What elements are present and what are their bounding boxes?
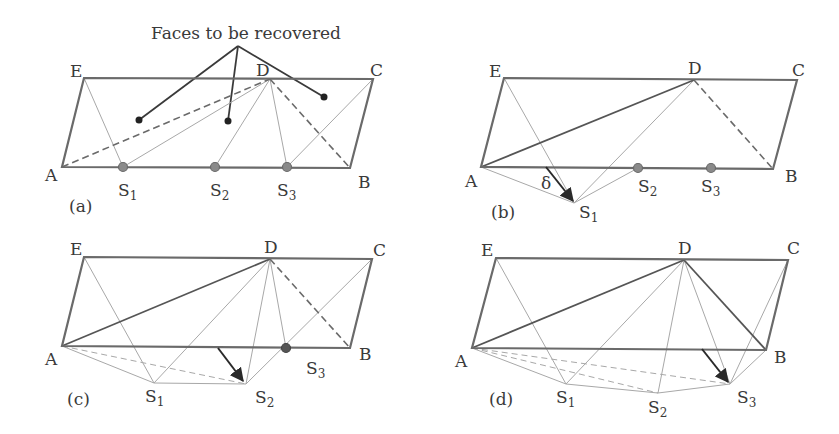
missing-edge-DB (270, 79, 350, 168)
vertex-label-a: A (454, 351, 468, 371)
steiner-label-s2: S2 (210, 180, 229, 203)
missing-edge-DB (694, 80, 773, 169)
vertex-label-e: E (70, 239, 82, 259)
missing-edge-DB (270, 259, 350, 348)
steiner-label-s3: S3 (701, 176, 720, 199)
steiner-label-s1: S1 (145, 386, 164, 409)
recovered-edge-AD (62, 259, 270, 346)
steiner-point-s3 (283, 163, 292, 172)
steiner-label-s3: S3 (277, 180, 296, 203)
panel-d: E D C A B S1 S2 S3 (d) (454, 238, 800, 420)
panel-a: Faces to be recovered E D C A B S1 S (44, 23, 383, 216)
vertex-label-d: D (678, 238, 692, 258)
vertex-label-b: B (774, 347, 787, 367)
steiner-point-s1 (119, 163, 128, 172)
vertex-label-d: D (256, 60, 270, 80)
boundary-polygon (481, 78, 797, 169)
vertex-label-e: E (489, 61, 501, 81)
displacement-arrow (702, 349, 728, 382)
vertex-label-e: E (70, 61, 82, 81)
steiner-label-s2: S2 (638, 176, 657, 199)
panel-label-b: (b) (491, 202, 515, 222)
panel-label-c: (c) (67, 389, 90, 409)
displacement-arrow (218, 348, 243, 381)
steiner-point-s2 (634, 164, 643, 173)
steiner-point-s3 (282, 344, 291, 353)
steiner-label-s1: S1 (579, 202, 598, 225)
panel-b: E D C A B δ S1 S2 S3 (b) (464, 58, 805, 225)
vertex-label-c: C (370, 60, 383, 80)
face-marker (321, 94, 328, 101)
vertex-label-a: A (464, 171, 478, 191)
vertex-label-b: B (358, 172, 371, 192)
annotation-pointers (139, 46, 324, 121)
vertex-label-a: A (44, 165, 58, 185)
boundary-polygon (472, 258, 788, 350)
steiner-point-recovery-figure: Faces to be recovered E D C A B S1 S (0, 0, 839, 434)
steiner-label-s2: S2 (255, 387, 274, 410)
vertex-label-c: C (373, 240, 386, 260)
face-marker (225, 118, 232, 125)
steiner-point-s3 (707, 164, 716, 173)
steiner-label-s3: S3 (737, 387, 756, 410)
steiner-point-s2 (211, 163, 220, 172)
annotation-faces-to-be-recovered: Faces to be recovered (151, 23, 341, 43)
panel-label-d: (d) (489, 389, 513, 409)
steiner-label-s2: S2 (648, 397, 667, 420)
panel-c: E D C A B S1 S2 S3 (c) (44, 237, 386, 410)
missing-edge-AD (62, 79, 270, 167)
vertex-label-b: B (359, 344, 372, 364)
displacement-label-delta: δ (541, 173, 551, 193)
vertex-label-d: D (264, 237, 278, 257)
recovered-edge-AD (472, 260, 684, 348)
panel-label-a: (a) (69, 196, 92, 216)
vertex-label-a: A (44, 349, 58, 369)
steiner-label-s1: S1 (118, 180, 137, 203)
boundary-polygon (62, 257, 372, 348)
recovered-edge-DB (684, 260, 766, 350)
vertex-label-e: E (481, 240, 493, 260)
vertex-label-d: D (688, 58, 702, 78)
steiner-label-s1: S1 (556, 387, 575, 410)
vertex-label-c: C (792, 60, 805, 80)
vertex-label-c: C (787, 238, 800, 258)
steiner-label-s3: S3 (306, 358, 325, 381)
vertex-label-b: B (785, 166, 798, 186)
face-marker (136, 117, 143, 124)
boundary-polygon (62, 78, 373, 168)
